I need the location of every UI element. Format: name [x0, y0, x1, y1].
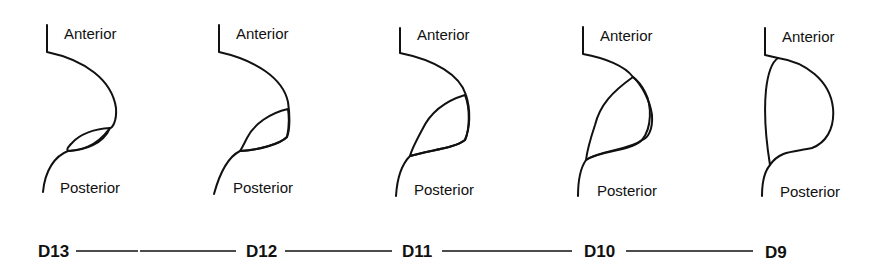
panel-d12: Anterior Posterior	[214, 25, 293, 196]
posterior-label: Posterior	[597, 182, 657, 199]
stage-label-d11: D11	[402, 242, 432, 261]
profile-outline	[578, 27, 652, 196]
anterior-label: Anterior	[64, 25, 117, 42]
stage-label-d12: D12	[246, 242, 277, 261]
stage-timeline: D13 D12 D11 D10 D9	[38, 242, 787, 262]
anterior-label: Anterior	[600, 27, 653, 44]
shaded-region	[410, 95, 469, 156]
profile-outline	[396, 28, 469, 196]
shaded-region	[67, 128, 110, 151]
posterior-label: Posterior	[233, 179, 293, 196]
shaded-region	[765, 58, 833, 165]
posterior-label: Posterior	[414, 181, 474, 198]
panel-d10: Anterior Posterior	[578, 27, 657, 199]
stage-label-d9: D9	[765, 243, 787, 262]
posterior-label: Posterior	[60, 179, 120, 196]
anterior-label: Anterior	[417, 26, 470, 43]
anterior-label: Anterior	[782, 28, 835, 45]
diagram-canvas: Anterior Posterior Anterior Posterior An…	[0, 0, 890, 274]
profile-outline	[43, 25, 116, 192]
panel-d11: Anterior Posterior	[396, 26, 474, 198]
panel-d9: Anterior Posterior	[762, 28, 840, 200]
panel-d13: Anterior Posterior	[43, 25, 120, 196]
shaded-region	[586, 77, 650, 160]
stage-label-d10: D10	[584, 242, 615, 261]
stage-label-d13: D13	[38, 242, 69, 261]
anterior-label: Anterior	[236, 25, 289, 42]
profile-outline	[214, 25, 289, 194]
posterior-label: Posterior	[780, 183, 840, 200]
shaded-region	[240, 109, 289, 151]
